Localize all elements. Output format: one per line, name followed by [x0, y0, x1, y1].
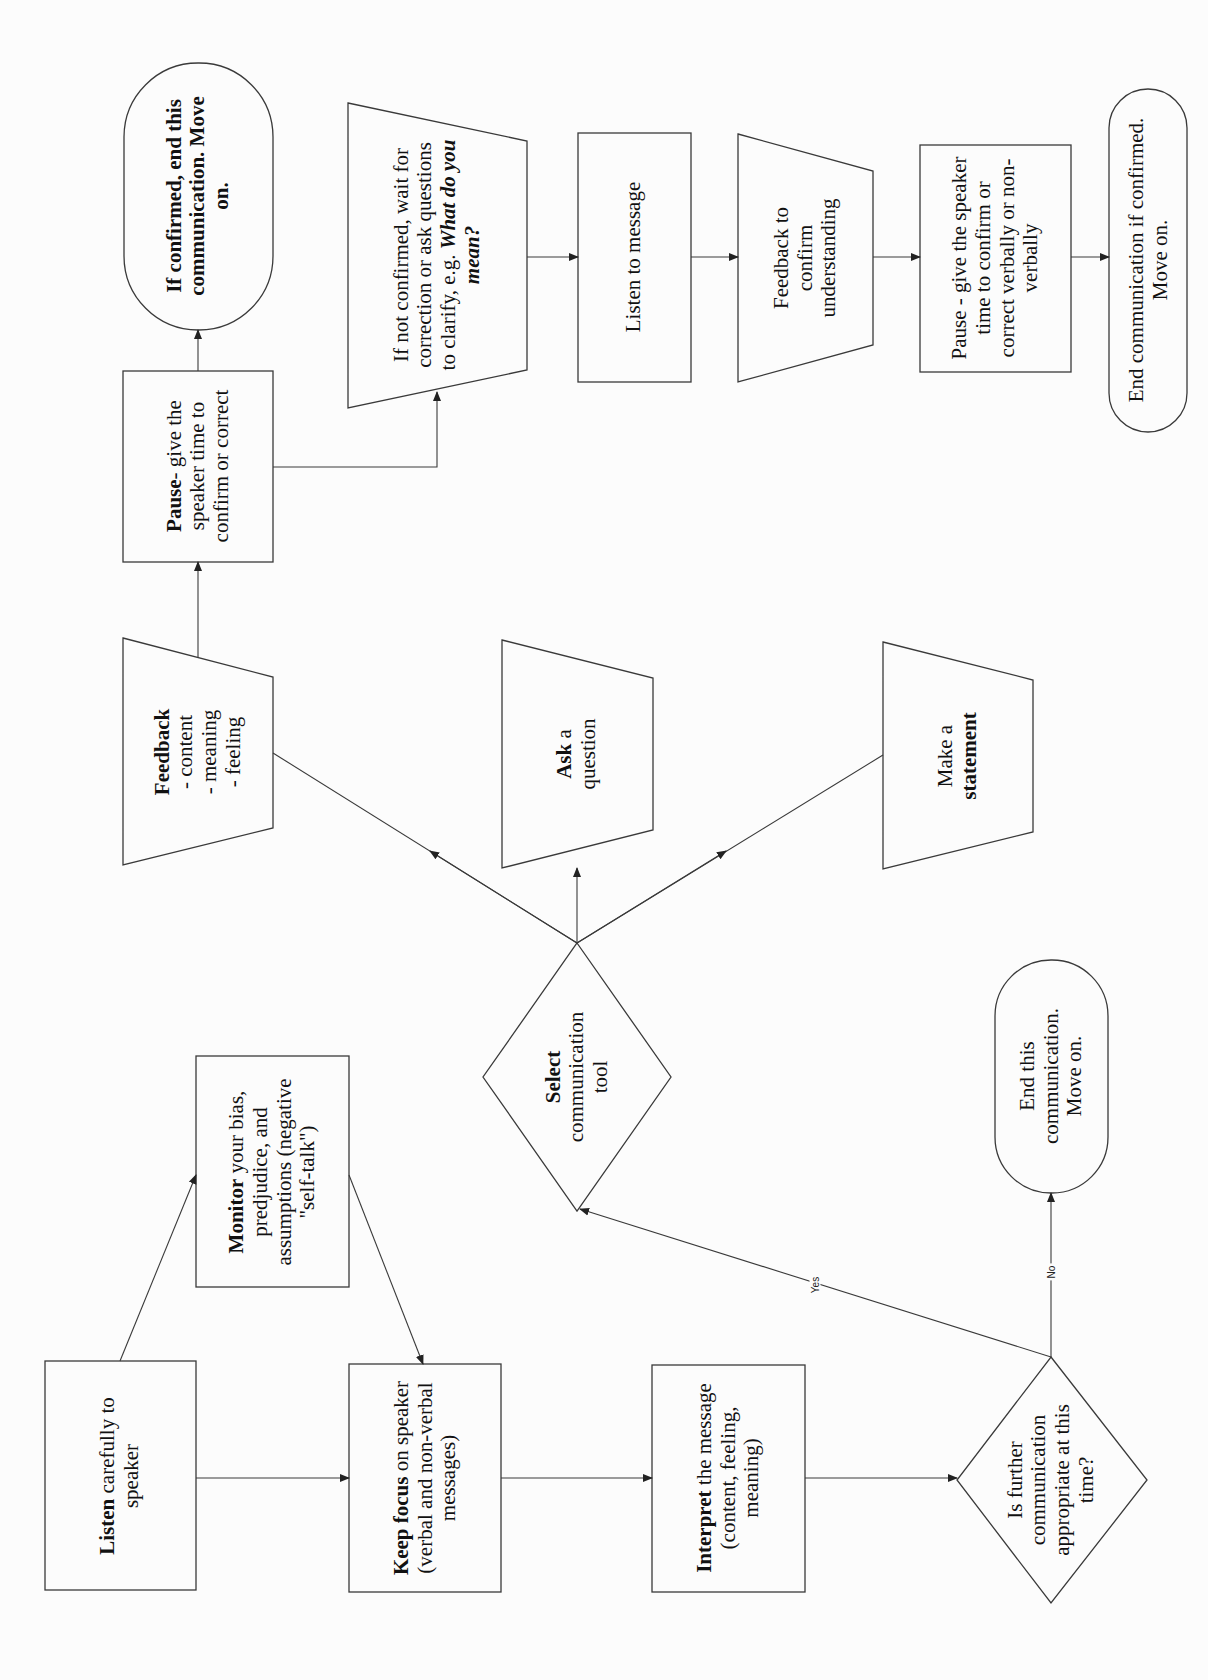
keep-focus-label: Keep focus on speaker (verbal and non-ve…: [353, 1376, 498, 1581]
flowchart-page: Listen carefully to speaker Monitor your…: [0, 0, 1208, 1680]
pause-1-label: Pause- give the speaker time to confirm …: [128, 376, 268, 556]
listen-message-label: Listen to message: [584, 142, 684, 372]
feedback-confirm-label: Feedback to confirm understanding: [743, 173, 868, 343]
feedback-label: Feedback - content - meaning - feeling: [128, 662, 268, 842]
monitor-label: Monitor your bias, predjudice, and assum…: [200, 1065, 345, 1280]
interpret-label: Interpret the message (content, feeling,…: [656, 1378, 801, 1578]
arrow-pause-1-to-if-not-confirmed: [273, 392, 437, 467]
arrow-select-to-statement-head: [577, 851, 726, 943]
make-statement-label: Make a statement: [888, 701, 1028, 811]
pause-2-label: Pause - give the speaker time to confirm…: [923, 151, 1068, 366]
arrow-select-to-feedback-head: [430, 851, 577, 943]
if-confirmed-label: If confirmed, end this communication. Mo…: [128, 86, 268, 306]
ask-question-label: Ask a question: [507, 704, 647, 804]
no-edge-label: No: [1046, 1264, 1057, 1281]
end-this-label: End this communication. Move on.: [999, 991, 1104, 1161]
is-further-label: Is further communication appropriate at …: [981, 1393, 1121, 1568]
arrow-listen-to-monitor: [120, 1175, 196, 1361]
yes-edge-label: Yes: [810, 1275, 821, 1295]
select-tool-label: Select communication tool: [512, 1007, 642, 1147]
end-if-confirmed-label: End communication if confirmed. Move on.: [1111, 105, 1186, 415]
if-not-confirmed-label: If not confirmed, wait for correction or…: [352, 133, 522, 378]
listen-carefully-label: Listen carefully to speaker: [50, 1376, 190, 1576]
arrow-monitor-to-keep-focus: [349, 1175, 423, 1364]
